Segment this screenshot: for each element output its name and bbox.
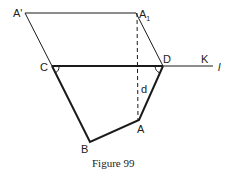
- label-a-prime: A': [13, 7, 22, 19]
- angle-arc-d: [155, 66, 160, 73]
- figure-caption: Figure 99: [92, 157, 135, 169]
- geometry-figure: A' A1 C D K l d A B Figure 99: [0, 0, 233, 170]
- label-c: C: [40, 61, 48, 73]
- label-d-distance: d: [141, 83, 147, 95]
- label-a1: A1: [139, 8, 150, 22]
- label-a: A: [137, 123, 145, 135]
- label-l: l: [218, 61, 221, 73]
- label-k: K: [201, 53, 209, 65]
- segment-aprime-c: [25, 13, 52, 66]
- label-d: D: [163, 53, 171, 65]
- path-c-b-a-d: [52, 66, 163, 142]
- label-b: B: [81, 143, 88, 155]
